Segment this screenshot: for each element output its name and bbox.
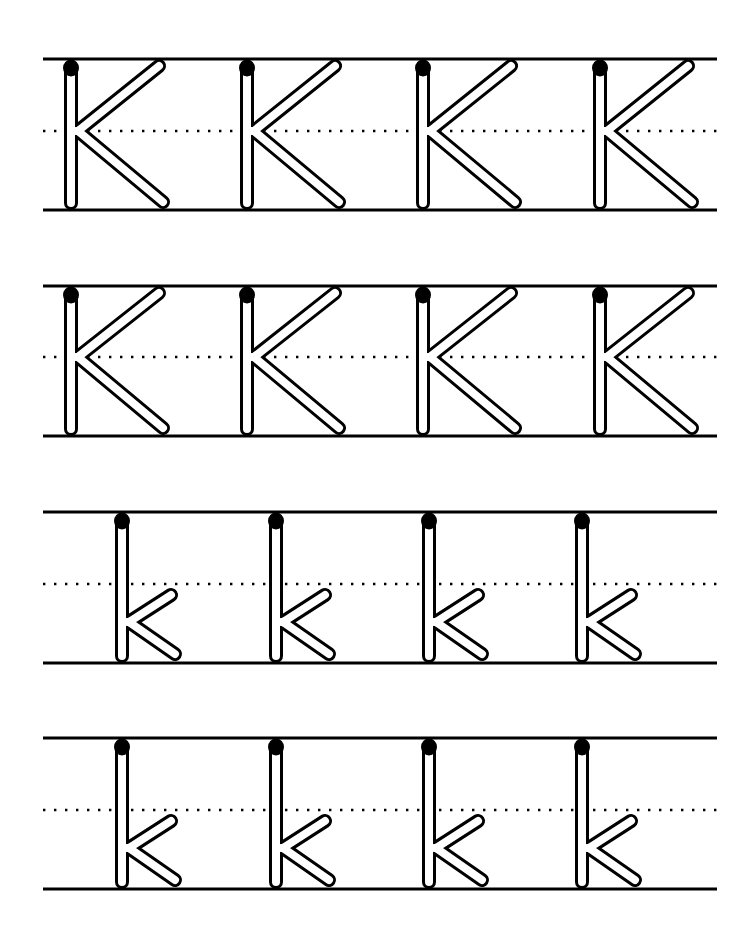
start-dot-icon — [421, 739, 437, 756]
junction — [277, 618, 285, 626]
start-dot-icon — [421, 513, 437, 530]
junction — [601, 353, 609, 361]
upper-arm-fill — [129, 595, 171, 622]
practice-row-2 — [43, 286, 717, 436]
upper-arm-fill — [607, 66, 688, 131]
lower-arm-fill — [254, 357, 339, 428]
lower-arm-fill — [607, 131, 692, 202]
lower-arm-fill — [430, 131, 515, 202]
practice-row-1 — [43, 59, 717, 210]
upper-arm-fill — [430, 293, 511, 357]
practice-row-4 — [43, 738, 717, 889]
uppercase-k-4 — [592, 287, 692, 430]
junction — [583, 844, 591, 852]
start-dot-icon — [114, 739, 130, 756]
start-dot-icon — [415, 287, 431, 304]
junction — [430, 618, 438, 626]
upper-arm-fill — [607, 293, 688, 357]
lower-arm-fill — [78, 357, 163, 428]
lower-arm-fill — [254, 131, 339, 202]
junction — [72, 127, 80, 135]
lower-arm-fill — [436, 848, 482, 880]
start-dot-icon — [63, 287, 79, 304]
lower-arm-fill — [78, 131, 163, 202]
junction — [583, 618, 591, 626]
upper-arm-fill — [436, 821, 478, 848]
start-dot-icon — [574, 739, 590, 756]
lower-arm-fill — [607, 357, 692, 428]
upper-arm-fill — [129, 821, 171, 848]
upper-arm-fill — [283, 595, 325, 622]
upper-arm-fill — [78, 293, 159, 357]
junction — [123, 618, 131, 626]
lower-arm-fill — [589, 622, 635, 654]
lower-arm-fill — [129, 622, 175, 654]
lower-arm-fill — [283, 848, 329, 880]
upper-arm-fill — [254, 293, 335, 357]
start-dot-icon — [239, 287, 255, 304]
start-dot-icon — [574, 513, 590, 530]
start-dot-icon — [415, 60, 431, 77]
uppercase-k-3 — [415, 60, 515, 204]
tracing-worksheet: Letter K tracing practice — [0, 0, 754, 938]
lower-arm-fill — [129, 848, 175, 880]
upper-arm-fill — [436, 595, 478, 622]
junction — [601, 127, 609, 135]
upper-arm-fill — [78, 66, 159, 131]
upper-arm-fill — [430, 66, 511, 131]
practice-row-3 — [43, 512, 717, 663]
junction — [277, 844, 285, 852]
lower-arm-fill — [436, 622, 482, 654]
junction — [248, 353, 256, 361]
upper-arm-fill — [589, 821, 631, 848]
junction — [248, 127, 256, 135]
worksheet-canvas — [0, 0, 754, 938]
junction — [72, 353, 80, 361]
junction — [430, 844, 438, 852]
start-dot-icon — [268, 513, 284, 530]
lower-arm-fill — [430, 357, 515, 428]
junction — [123, 844, 131, 852]
junction — [424, 127, 432, 135]
uppercase-k-3 — [415, 287, 515, 430]
upper-arm-fill — [254, 66, 335, 131]
uppercase-k-1 — [63, 60, 163, 204]
start-dot-icon — [592, 287, 608, 304]
uppercase-k-1 — [63, 287, 163, 430]
start-dot-icon — [239, 60, 255, 77]
upper-arm-fill — [283, 821, 325, 848]
upper-arm-fill — [589, 595, 631, 622]
start-dot-icon — [268, 739, 284, 756]
lower-arm-fill — [589, 848, 635, 880]
lower-arm-fill — [283, 622, 329, 654]
uppercase-k-4 — [592, 60, 692, 204]
start-dot-icon — [592, 60, 608, 77]
uppercase-k-2 — [239, 287, 339, 430]
uppercase-k-2 — [239, 60, 339, 204]
start-dot-icon — [63, 60, 79, 77]
start-dot-icon — [114, 513, 130, 530]
junction — [424, 353, 432, 361]
